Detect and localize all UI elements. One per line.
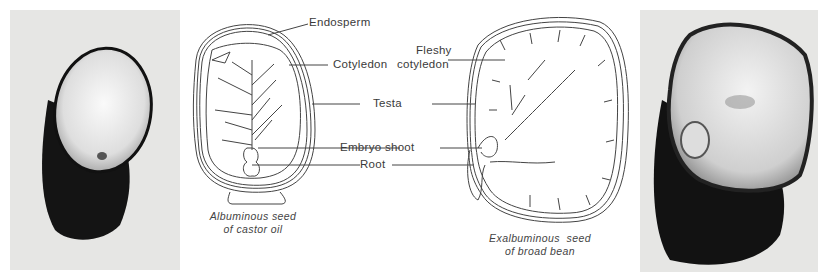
broad-bean-photo <box>640 10 818 272</box>
caption-bean-line1: Exalbuminous seed <box>480 232 600 245</box>
label-root: Root <box>360 158 386 170</box>
label-testa: Testa <box>373 97 402 109</box>
caption-bean-line2: of broad bean <box>480 245 600 258</box>
label-cotyledon: Cotyledon <box>333 58 387 70</box>
caption-castor-line1: Albuminous seed <box>198 210 308 223</box>
caption-bean: Exalbuminous seed of broad bean <box>480 232 600 258</box>
label-endosperm: Endosperm <box>309 16 371 28</box>
label-fleshy-cotyledon-1: Fleshy <box>416 44 452 56</box>
caption-castor-line2: of castor oil <box>198 223 308 236</box>
caption-castor: Albuminous seed of castor oil <box>198 210 308 236</box>
castor-seed-drawing <box>193 24 400 204</box>
label-fleshy-cotyledon-2: cotyledon <box>397 58 449 70</box>
label-embryo-shoot: Embryo shoot <box>340 141 415 153</box>
